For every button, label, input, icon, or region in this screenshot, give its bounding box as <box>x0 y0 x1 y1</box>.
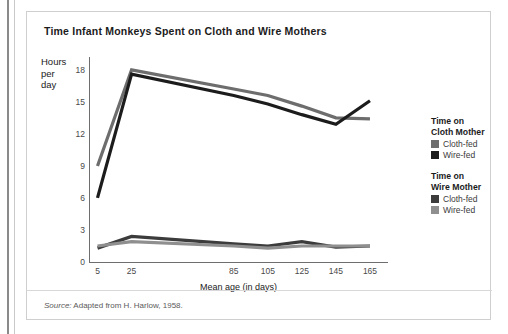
y-axis-tick-label: 3 <box>63 225 85 235</box>
legend-item[interactable]: Wire-fed <box>431 150 507 160</box>
x-axis-tick-label: 105 <box>261 266 275 276</box>
x-axis-tick-label: 25 <box>127 266 136 276</box>
legend-item-label: Wire-fed <box>443 205 475 215</box>
x-axis-line <box>89 262 388 263</box>
legend-swatch-icon <box>431 151 439 159</box>
legend-group: Time onCloth MotherCloth-fedWire-fed <box>431 116 507 160</box>
x-axis-tick-label: 145 <box>329 266 343 276</box>
legend-item[interactable]: Wire-fed <box>431 205 507 215</box>
source-divider <box>27 290 492 291</box>
plot-area <box>89 57 387 262</box>
legend-item-label: Cloth-fed <box>443 194 478 204</box>
legend-item-label: Wire-fed <box>443 150 475 160</box>
page-gutter-bar-left <box>7 0 9 334</box>
x-axis-tick-label: 125 <box>295 266 309 276</box>
source-label: Source: <box>44 301 72 310</box>
y-axis-tick-label: 18 <box>63 65 85 75</box>
y-axis-tick-label: 0 <box>63 257 85 267</box>
y-axis-tick-label: 12 <box>63 129 85 139</box>
x-axis-tick-labels: 52585105125145165 <box>89 266 388 280</box>
legend-heading-line-1: Time on <box>431 116 507 127</box>
figure-card: Time Infant Monkeys Spent on Cloth and W… <box>26 11 491 320</box>
y-axis-tick-label: 9 <box>63 161 85 171</box>
legend-heading-line-1: Time on <box>431 171 507 182</box>
y-axis-tick-label: 15 <box>63 97 85 107</box>
figure-page: Time Infant Monkeys Spent on Cloth and W… <box>0 0 508 334</box>
chart-series-line <box>98 70 370 166</box>
x-axis-tick-label: 85 <box>229 266 238 276</box>
chart-legend: Time onCloth MotherCloth-fedWire-fedTime… <box>431 116 507 226</box>
source-note: Source: Adapted from H. Harlow, 1958. <box>44 301 183 310</box>
legend-group-heading: Time onCloth Mother <box>431 116 507 137</box>
y-axis-tick-label: 6 <box>63 193 85 203</box>
page-gutter-bar-inner <box>14 0 15 334</box>
x-axis-tick-label: 165 <box>363 266 377 276</box>
legend-item[interactable]: Cloth-fed <box>431 139 507 149</box>
y-axis-tick-labels: 0369121518 <box>59 57 85 263</box>
legend-group-heading: Time onWire Mother <box>431 171 507 192</box>
legend-item[interactable]: Cloth-fed <box>431 194 507 204</box>
legend-heading-line-2: Wire Mother <box>431 182 507 193</box>
legend-item-label: Cloth-fed <box>443 139 478 149</box>
x-axis-tick-label: 5 <box>95 266 100 276</box>
chart-series-line <box>98 74 370 198</box>
line-chart-svg <box>89 57 387 262</box>
legend-group: Time onWire MotherCloth-fedWire-fed <box>431 171 507 215</box>
source-text: Adapted from H. Harlow, 1958. <box>72 301 183 310</box>
legend-swatch-icon <box>431 140 439 148</box>
legend-heading-line-2: Cloth Mother <box>431 127 507 138</box>
figure-title: Time Infant Monkeys Spent on Cloth and W… <box>44 25 327 37</box>
legend-swatch-icon <box>431 195 439 203</box>
legend-swatch-icon <box>431 206 439 214</box>
